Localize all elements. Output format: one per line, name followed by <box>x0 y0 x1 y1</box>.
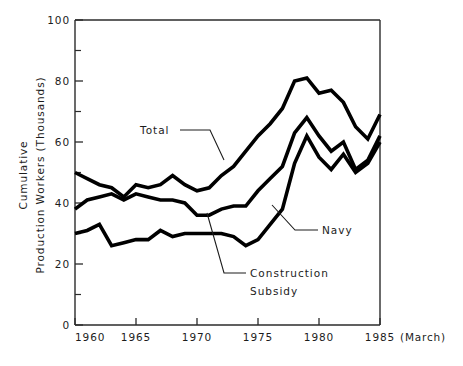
annotation-total: Total <box>139 124 224 160</box>
x-tick-label-1980: 1980 <box>304 331 334 343</box>
y-tick-label-60: 60 <box>55 136 70 148</box>
x-tick-label-1985: 1985 <box>365 331 395 343</box>
annotation-label-subsidy: Subsidy <box>250 285 298 297</box>
y-tick-label-80: 80 <box>55 75 70 87</box>
chart-container: 0 20 40 60 80 100 1960 1965 1970 1975 19… <box>0 0 463 366</box>
x-tick-label-1970: 1970 <box>182 331 212 343</box>
y-axis-title-line2: Production Workers (Thousands) <box>34 76 46 273</box>
x-tick-labels: 1960 1965 1970 1975 1980 1985 (March) <box>75 331 446 343</box>
annotation-label-total: Total <box>139 124 170 136</box>
x-axis-ticks <box>75 318 380 325</box>
series-line-total <box>75 78 380 197</box>
y-axis-title: Cumulative Production Workers (Thousands… <box>17 76 46 273</box>
x-tick-label-1965: 1965 <box>121 331 151 343</box>
series-group <box>75 78 380 246</box>
annotation-leader-navy <box>272 205 318 230</box>
x-axis-note: (March) <box>400 331 446 343</box>
y-axis-title-line1: Cumulative <box>17 141 29 210</box>
annotation-label-navy: Navy <box>322 224 353 236</box>
y-tick-label-40: 40 <box>55 197 70 209</box>
y-tick-labels: 0 20 40 60 80 100 <box>47 14 70 331</box>
x-tick-label-1975: 1975 <box>243 331 273 343</box>
x-tick-label-1960: 1960 <box>75 331 105 343</box>
y-tick-label-20: 20 <box>55 258 70 270</box>
annotation-label-construction: Construction <box>250 267 329 279</box>
y-tick-label-0: 0 <box>62 319 70 331</box>
line-chart-figure: 0 20 40 60 80 100 1960 1965 1970 1975 19… <box>0 0 463 366</box>
y-tick-label-100: 100 <box>47 14 70 26</box>
annotation-leader-total <box>180 130 224 160</box>
